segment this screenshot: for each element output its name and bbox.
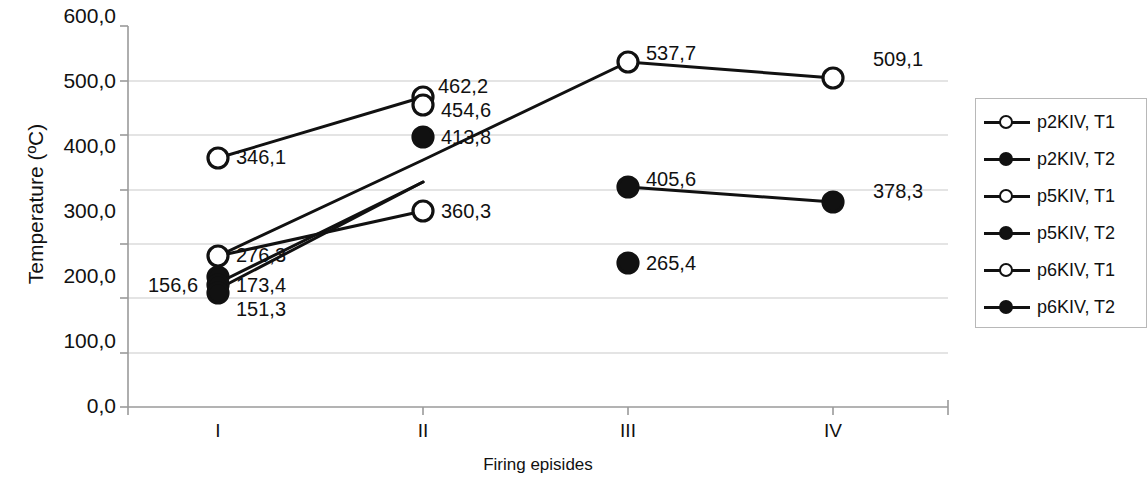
legend-label: p5KIV, T2	[1037, 223, 1115, 244]
data-label-509-1: 509,1	[873, 48, 923, 71]
data-label-360-3: 360,3	[441, 200, 491, 223]
legend-label: p5KIV, T1	[1037, 186, 1115, 207]
data-label-454-6: 454,6	[441, 99, 491, 122]
data-point-marker	[618, 52, 638, 72]
legend-label: p6KIV, T1	[1037, 260, 1115, 281]
open-circle-marker-icon	[984, 260, 1030, 280]
data-label-405-6: 405,6	[646, 168, 696, 191]
data-point-marker	[823, 192, 843, 212]
data-label-151-3: 151,3	[236, 298, 286, 321]
data-point-marker	[208, 283, 228, 303]
series-line-p5kiv-t1	[218, 62, 833, 256]
data-point-marker	[208, 148, 228, 168]
data-label-173-4: 173,4	[236, 274, 286, 297]
legend-item-p5kiv-t2[interactable]: p5KIV, T2	[984, 216, 1115, 250]
data-point-marker	[208, 246, 228, 266]
legend-label: p2KIV, T1	[1037, 112, 1115, 133]
legend-item-p6kiv-t2[interactable]: p6KIV, T2	[984, 290, 1115, 324]
data-label-378-3: 378,3	[873, 180, 923, 203]
data-label-276-3: 276,3	[236, 244, 286, 267]
data-label-265-4: 265,4	[646, 252, 696, 275]
data-label-462-2: 462,2	[438, 75, 488, 98]
legend: p2KIV, T1 p2KIV, T2 p5KIV, T1 p5KIV, T2 …	[975, 98, 1147, 328]
data-label-537-7: 537,7	[646, 42, 696, 65]
legend-label: p2KIV, T2	[1037, 149, 1115, 170]
legend-label: p6KIV, T2	[1037, 297, 1115, 318]
open-circle-marker-icon	[984, 186, 1030, 206]
data-label-156-6: 156,6	[148, 274, 198, 297]
legend-item-p6kiv-t1[interactable]: p6KIV, T1	[984, 253, 1115, 287]
data-point-marker	[413, 95, 433, 115]
data-label-413-8: 413,8	[441, 126, 491, 149]
data-point-marker	[413, 127, 433, 147]
legend-item-p2kiv-t2[interactable]: p2KIV, T2	[984, 142, 1115, 176]
data-point-marker	[618, 253, 638, 273]
filled-circle-marker-icon	[984, 297, 1030, 317]
legend-item-p5kiv-t1[interactable]: p5KIV, T1	[984, 179, 1115, 213]
data-point-marker	[618, 177, 638, 197]
chart-container: Temperature (ºC) Firing episides 600,0 5…	[0, 0, 1147, 491]
legend-item-p2kiv-t1[interactable]: p2KIV, T1	[984, 105, 1115, 139]
y-tick-marks	[120, 26, 128, 407]
series-lines	[218, 62, 833, 289]
filled-circle-marker-icon	[984, 223, 1030, 243]
x-tick-marks	[128, 407, 948, 415]
series-line-p6kiv-t2	[218, 182, 423, 289]
data-point-marker	[413, 201, 433, 221]
filled-circle-marker-icon	[984, 149, 1030, 169]
data-label-346-1: 346,1	[236, 146, 286, 169]
data-point-marker	[823, 68, 843, 88]
open-circle-marker-icon	[984, 112, 1030, 132]
